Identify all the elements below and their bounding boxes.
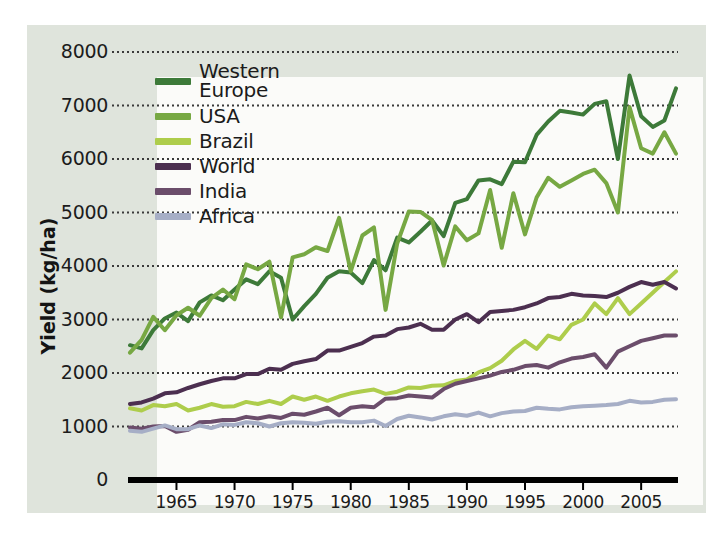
figure-container: 010002000300040005000600070008000 196519…: [0, 0, 720, 546]
legend-item-world[interactable]: World: [155, 154, 345, 179]
legend-swatch-india: [155, 188, 191, 195]
legend-label-africa: Africa: [199, 207, 255, 226]
legend-swatch-usa: [155, 113, 191, 120]
legend-label-western-europe: Western Europe: [199, 62, 280, 100]
x-tick-label-1995: 1995: [495, 492, 555, 512]
legend-swatch-africa: [155, 213, 191, 220]
legend-label-brazil: Brazil: [199, 132, 254, 151]
legend-item-india[interactable]: India: [155, 179, 345, 204]
legend-swatch-western-europe: [155, 78, 191, 85]
legend-swatch-world: [155, 163, 191, 170]
x-tick-label-1975: 1975: [263, 492, 323, 512]
series-line-brazil: [130, 271, 676, 410]
x-tick-label-1965: 1965: [146, 492, 206, 512]
legend-item-western-europe[interactable]: Western Europe: [155, 58, 345, 104]
legend-label-india: India: [199, 182, 247, 201]
y-tick-label-0: 0: [28, 468, 108, 490]
legend-swatch-brazil: [155, 138, 191, 145]
legend-label-world: World: [199, 157, 255, 176]
y-tick-label-7000: 7000: [28, 94, 108, 116]
axis-group: [128, 480, 678, 490]
x-tick-label-2005: 2005: [611, 492, 671, 512]
x-tick-label-1985: 1985: [379, 492, 439, 512]
x-tick-label-1990: 1990: [437, 492, 497, 512]
x-tick-label-1970: 1970: [205, 492, 265, 512]
x-tick-label-2000: 2000: [553, 492, 613, 512]
y-tick-label-1000: 1000: [28, 415, 108, 437]
x-tick-label-1980: 1980: [321, 492, 381, 512]
legend-item-usa[interactable]: USA: [155, 104, 345, 129]
line-chart: [0, 0, 720, 546]
chart-legend: Western EuropeUSABrazilWorldIndiaAfrica: [155, 58, 345, 229]
y-tick-label-6000: 6000: [28, 147, 108, 169]
y-tick-label-8000: 8000: [28, 40, 108, 62]
legend-item-africa[interactable]: Africa: [155, 204, 345, 229]
y-axis-title: Yield (kg/ha): [37, 196, 59, 376]
legend-label-usa: USA: [199, 107, 240, 126]
legend-item-brazil[interactable]: Brazil: [155, 129, 345, 154]
